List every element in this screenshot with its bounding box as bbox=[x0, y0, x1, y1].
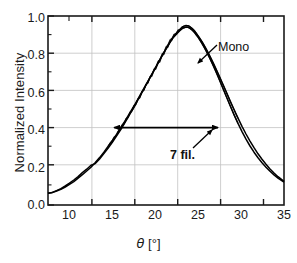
fil-leader-line bbox=[193, 130, 212, 148]
annotation-7fil: 7 fil. bbox=[170, 148, 195, 162]
chart-figure: Normalized Intensity 1.0 0.8 0.6 0.4 0.2… bbox=[0, 0, 297, 263]
mono-leader-line bbox=[198, 45, 217, 63]
annotation-mono: Mono bbox=[218, 40, 249, 54]
plot-area bbox=[0, 0, 297, 263]
